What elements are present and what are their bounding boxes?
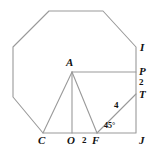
vertex-label-t: T <box>139 89 146 100</box>
vertex-label-a: A <box>66 57 73 68</box>
segment-a-to-c <box>43 72 72 133</box>
vertex-label-j: J <box>139 135 145 146</box>
measure-label-of: 2 <box>82 136 87 145</box>
measure-label-ft: 4 <box>114 101 119 110</box>
segment-a-to-f <box>72 72 97 133</box>
vertex-label-f: F <box>92 135 99 146</box>
vertex-label-i: I <box>140 42 144 53</box>
vertex-label-o: O <box>67 135 75 146</box>
measure-label-pt: 2 <box>139 78 144 87</box>
octagon-figure: A C O 2 F J T 2 P I 4 45° <box>0 0 155 152</box>
vertex-label-p: P <box>139 66 146 77</box>
vertex-label-c: C <box>38 135 45 146</box>
figure-canvas <box>0 0 155 152</box>
angle-label-tfj: 45° <box>104 122 115 130</box>
